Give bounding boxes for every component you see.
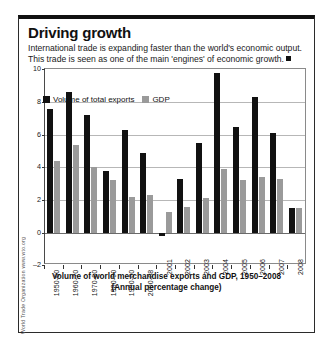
bar-gdp: [221, 169, 227, 233]
bar-exports: [177, 179, 183, 233]
x-tick-mark: [63, 265, 64, 269]
legend-swatch-exports-icon: [43, 96, 50, 103]
bar-gdp: [73, 145, 79, 233]
y-tick-label: 8: [37, 97, 41, 106]
card-header: Driving growth International trade is ex…: [19, 19, 314, 66]
bar-group: [287, 69, 306, 263]
standfirst-text: International trade is expanding faster …: [28, 43, 305, 65]
bar-exports: [66, 92, 72, 232]
bar-exports: [103, 171, 109, 233]
bar-exports: [159, 233, 165, 236]
bar-exports: [140, 153, 146, 233]
bar-gdp: [277, 179, 283, 233]
x-tick-mark: [231, 265, 232, 269]
bar-exports: [196, 143, 202, 233]
legend-label-exports: Volume of total exports: [53, 95, 134, 104]
x-tick-mark: [250, 265, 251, 269]
y-tick-label: 4: [37, 162, 41, 171]
bar-exports: [122, 130, 128, 233]
x-tick-mark: [138, 265, 139, 269]
source-credit: World Trade Organization www.wto.org: [20, 237, 26, 334]
bar-exports: [84, 115, 90, 233]
bar-exports: [214, 73, 220, 233]
bar-group: [212, 69, 231, 263]
bar-gdp: [296, 208, 302, 233]
bar-gdp: [166, 212, 172, 233]
y-tick-label: –2: [33, 260, 41, 269]
bar-gdp: [129, 197, 135, 233]
chart-card: Driving growth International trade is ex…: [18, 15, 315, 333]
bar-gdp: [240, 180, 246, 232]
x-tick-mark: [287, 265, 288, 269]
chart-caption: Volume of world merchandise exports and …: [27, 271, 306, 294]
x-tick-mark: [156, 265, 157, 269]
bar-gdp: [54, 161, 60, 233]
legend-item-gdp: GDP: [142, 95, 169, 104]
bar-group: [194, 69, 213, 263]
standfirst-line-1: International trade is expanding faster …: [28, 43, 302, 53]
x-tick-mark: [119, 265, 120, 269]
bar-gdp: [184, 207, 190, 233]
bar-gdp: [91, 167, 97, 232]
bar-exports: [233, 127, 239, 233]
caption-line-2: (Annual percentage change): [27, 282, 306, 293]
caption-line-1: Volume of world merchandise exports and …: [27, 271, 306, 282]
bar-gdp: [203, 198, 209, 232]
x-tick-mark: [269, 265, 270, 269]
x-tick-mark: [175, 265, 176, 269]
end-mark-icon: [286, 56, 291, 61]
standfirst-line-2: This trade is seen as one of the main 'e…: [28, 54, 284, 64]
bar-exports: [270, 133, 276, 233]
y-tick-label: 2: [37, 195, 41, 204]
legend-label-gdp: GDP: [152, 95, 169, 104]
y-tick-label: 0: [37, 227, 41, 236]
bar-group: [268, 69, 287, 263]
chart-legend: Volume of total exports GDP: [43, 95, 170, 104]
x-tick-mark: [44, 265, 45, 269]
page-title: Driving growth: [28, 25, 305, 41]
legend-swatch-gdp-icon: [142, 96, 149, 103]
screenshot-root: Driving growth International trade is ex…: [0, 0, 336, 347]
x-tick-mark: [212, 265, 213, 269]
bar-group: [175, 69, 194, 263]
y-axis-labels: 1086420–2: [27, 68, 43, 264]
x-tick-mark: [100, 265, 101, 269]
bar-gdp: [147, 195, 153, 233]
bar-exports: [289, 208, 295, 233]
x-tick-mark: [81, 265, 82, 269]
bar-exports: [47, 109, 53, 233]
legend-item-exports: Volume of total exports: [43, 95, 134, 104]
y-tick-label: 6: [37, 129, 41, 138]
bar-gdp: [110, 180, 116, 232]
bar-exports: [252, 97, 258, 233]
x-tick-mark: [194, 265, 195, 269]
bar-group: [249, 69, 268, 263]
bar-gdp: [259, 177, 265, 233]
bar-group: [231, 69, 250, 263]
y-tick-label: 10: [33, 64, 41, 73]
